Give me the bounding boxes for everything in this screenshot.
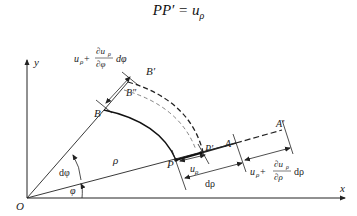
arc-B-P [104,110,176,160]
phi-label: φ [70,185,76,196]
point-Aprime-label: A′ [275,118,285,129]
radial-line-phi-dphi [27,110,104,198]
svg-text:+: + [84,53,90,64]
dashed-Aprime [236,130,282,143]
svg-text:ρ: ρ [285,164,289,170]
arc-Bprime-dashed [128,82,203,152]
rho-label: ρ [112,154,118,166]
radial-extension-B [104,82,128,110]
dphi-label: dφ [59,167,70,178]
radial-displacement-formula: u ρ + ∂u ρ ∂ρ dρ [250,159,304,182]
svg-text:u: u [250,166,255,177]
svg-text:u: u [74,53,79,64]
tangential-displacement-formula: u ρ + ∂u ρ ∂φ dφ [74,46,127,69]
point-A-label: A [224,138,232,149]
origin-label: O [16,200,24,212]
svg-text:∂φ: ∂φ [96,59,105,69]
svg-text:+: + [260,166,266,177]
svg-text:ρ: ρ [194,168,199,176]
angle-arc-dphi [73,155,81,180]
d-rho-label: dρ [205,178,215,189]
svg-text:∂u: ∂u [96,46,105,56]
svg-text:dφ: dφ [116,53,127,64]
svg-text:ρ: ρ [107,51,111,57]
dim-arrow-radial-increment [245,148,290,160]
svg-text:∂ρ: ∂ρ [274,172,283,182]
point-P-label: P [166,158,174,170]
tick-A [233,134,246,172]
svg-text:∂u: ∂u [274,159,283,169]
angle-arc-phi [81,184,82,198]
point-Bdoubleprime-label: B″ [126,87,137,98]
polar-displacement-diagram: y x O B B′ B″ u ρ + ∂u ρ ∂φ dφ P P′ A A′ [0,0,357,216]
tick-P [172,150,186,190]
point-B-label: B [94,107,101,119]
x-axis-label: x [339,182,345,194]
u-rho-label: u ρ [190,163,199,176]
point-Bprime-label: B′ [146,65,156,77]
point-Pprime-label: P′ [204,143,214,154]
svg-text:dρ: dρ [294,166,304,177]
y-axis-label: y [33,56,39,68]
